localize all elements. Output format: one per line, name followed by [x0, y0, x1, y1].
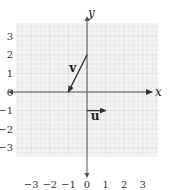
x-tick-label: 1 [102, 179, 108, 190]
y-tick-label: 3 [7, 31, 13, 42]
x-tick-label: −1 [61, 179, 76, 190]
x-axis-label: x [155, 85, 162, 99]
vector-v-label: v [68, 61, 77, 75]
coordinate-plane: xy −3−2−101233210−1−2−3 vu [0, 0, 170, 190]
y-tick-label: −2 [0, 124, 13, 135]
x-tick-label: −2 [42, 179, 57, 190]
y-tick-label: −3 [0, 142, 13, 153]
x-tick-label: 0 [84, 179, 90, 190]
y-tick-label: 1 [7, 68, 13, 79]
y-tick-label: 0 [7, 87, 13, 98]
y-axis-label: y [87, 6, 95, 20]
x-tick-label: 2 [121, 179, 127, 190]
y-axis-arrow-down-icon [85, 173, 90, 178]
vector-u-label: u [91, 109, 100, 123]
y-tick-label: −1 [0, 105, 13, 116]
x-tick-label: 3 [140, 179, 146, 190]
y-tick-label: 2 [7, 49, 13, 60]
x-tick-label: −3 [24, 179, 39, 190]
